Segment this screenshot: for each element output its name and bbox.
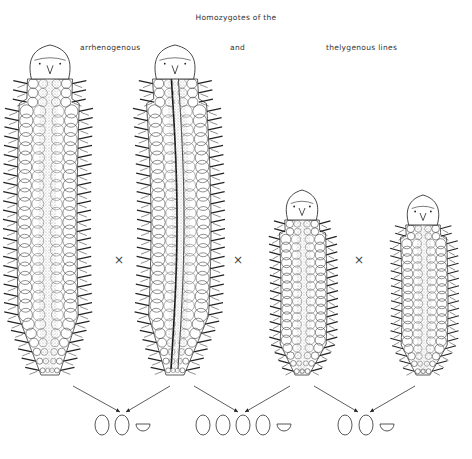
offspring-group-2 <box>196 415 291 435</box>
worm-arrhenogenous-2 <box>133 45 225 375</box>
arrow-w2-to-group1 <box>126 386 170 412</box>
arrow-w4-to-group3 <box>370 386 415 412</box>
egg-oval <box>236 415 250 435</box>
egg-oval <box>115 415 129 435</box>
egg-oval <box>338 415 352 435</box>
arrow-w3-to-group2 <box>245 386 290 412</box>
worm-thelygenous-1 <box>269 190 338 375</box>
worm-arrhenogenous-1 <box>3 45 93 375</box>
egg-oval <box>216 415 230 435</box>
half-circle-symbol <box>136 424 150 431</box>
egg-oval <box>256 415 270 435</box>
arrow-w2-to-group2 <box>194 386 238 412</box>
half-circle-symbol <box>277 424 291 431</box>
offspring-group-1 <box>95 415 150 435</box>
arrow-w3-to-group3 <box>314 386 358 412</box>
arrow-w1-to-group1 <box>73 386 120 412</box>
offspring-group-3 <box>338 415 394 435</box>
worm-thelygenous-2 <box>390 195 459 375</box>
half-circle-symbol <box>380 424 394 431</box>
egg-oval <box>196 415 210 435</box>
diagram-canvas <box>0 0 472 459</box>
egg-oval <box>359 415 373 435</box>
egg-oval <box>95 415 109 435</box>
cross-arrows <box>73 386 415 412</box>
